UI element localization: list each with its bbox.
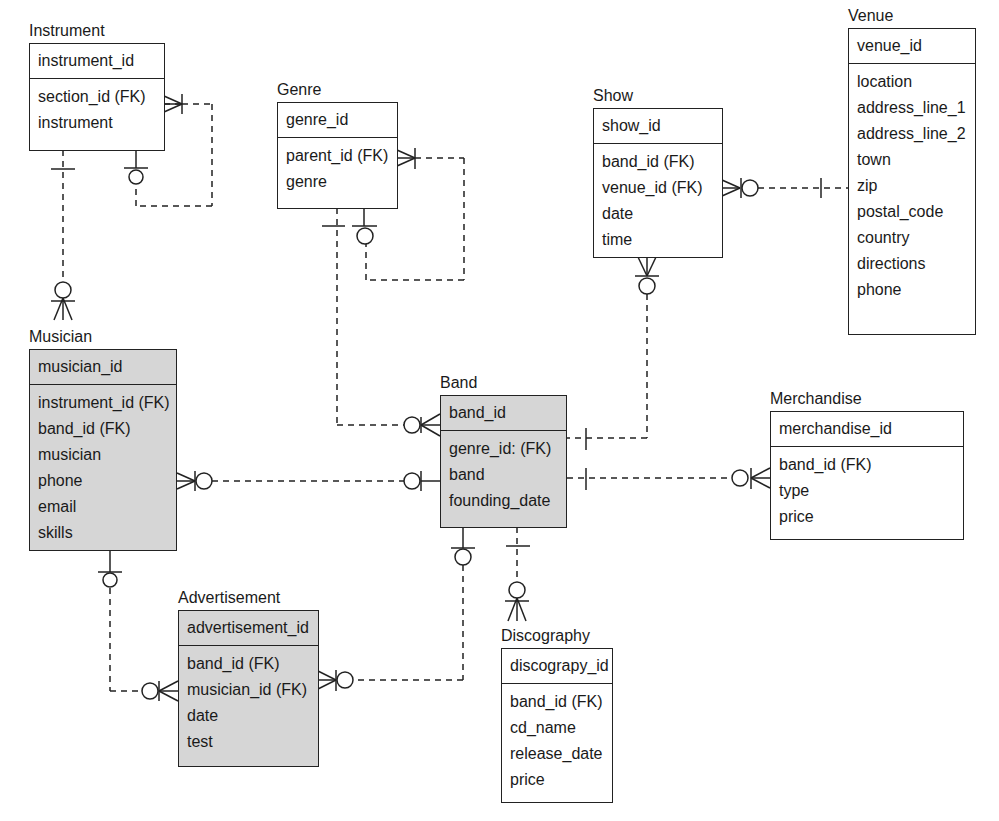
entity-instrument[interactable]: Instrument instrument_id section_id (FK)… (29, 43, 165, 151)
primary-key: band_id (441, 396, 566, 431)
attribute: section_id (FK) (38, 84, 156, 110)
attribute: band_id (FK) (38, 416, 168, 442)
attribute-list: parent_id (FK) genre (278, 138, 397, 203)
entity-box: venue_id location address_line_1 address… (848, 28, 976, 335)
entity-title: Band (440, 374, 477, 392)
attribute: test (187, 729, 310, 755)
entity-box: band_id genre_id: (FK) band founding_dat… (440, 395, 567, 528)
attribute: address_line_2 (857, 121, 967, 147)
attribute-list: location address_line_1 address_line_2 t… (849, 64, 975, 311)
attribute: skills (38, 520, 168, 546)
rel-show-band (567, 257, 659, 450)
rel-musician-advertisement (98, 550, 178, 701)
entity-show[interactable]: Show show_id band_id (FK) venue_id (FK) … (593, 108, 723, 258)
rel-band-discography (505, 527, 530, 621)
rel-musician-band (177, 471, 440, 491)
entity-title: Venue (848, 7, 893, 25)
entity-box: genre_id parent_id (FK) genre (277, 102, 398, 209)
attribute: parent_id (FK) (286, 143, 389, 169)
attribute: directions (857, 251, 967, 277)
entity-discography[interactable]: Discography discograpy_id band_id (FK) c… (501, 648, 613, 803)
entity-title: Show (593, 87, 633, 105)
attribute: type (779, 478, 955, 504)
attribute: band_id (FK) (602, 149, 714, 175)
attribute: zip (857, 173, 967, 199)
attribute: band (449, 462, 558, 488)
attribute: musician (38, 442, 168, 468)
entity-advertisement[interactable]: Advertisement advertisement_id band_id (… (178, 610, 319, 767)
attribute: date (602, 201, 714, 227)
entity-box: show_id band_id (FK) venue_id (FK) date … (593, 108, 723, 258)
attribute: band_id (FK) (779, 452, 955, 478)
attribute-list: band_id (FK) type price (771, 447, 963, 538)
entity-title: Musician (29, 328, 92, 346)
attribute-list: section_id (FK) instrument (30, 79, 164, 144)
attribute: band_id (FK) (510, 689, 604, 715)
attribute: location (857, 69, 967, 95)
attribute: time (602, 227, 714, 253)
entity-box: merchandise_id band_id (FK) type price (770, 411, 964, 540)
entity-box: advertisement_id band_id (FK) musician_i… (178, 610, 319, 767)
attribute: band_id (FK) (187, 651, 310, 677)
attribute: cd_name (510, 715, 604, 741)
primary-key: discograpy_id (502, 649, 612, 684)
primary-key: show_id (594, 109, 722, 144)
rel-genre-band (322, 208, 440, 436)
attribute-list: genre_id: (FK) band founding_date (441, 431, 566, 522)
attribute-list: instrument_id (FK) band_id (FK) musician… (30, 385, 176, 554)
entity-title: Discography (501, 627, 590, 645)
entity-title: Merchandise (770, 390, 862, 408)
entity-box: instrument_id section_id (FK) instrument (29, 43, 165, 151)
attribute: town (857, 147, 967, 173)
attribute: venue_id (FK) (602, 175, 714, 201)
attribute-list: band_id (FK) musician_id (FK) date test (179, 646, 318, 763)
entity-venue[interactable]: Venue venue_id location address_line_1 a… (848, 28, 976, 335)
entity-musician[interactable]: Musician musician_id instrument_id (FK) … (29, 349, 177, 551)
attribute: address_line_1 (857, 95, 967, 121)
attribute: country (857, 225, 967, 251)
attribute: email (38, 494, 168, 520)
attribute: founding_date (449, 488, 558, 514)
entity-merchandise[interactable]: Merchandise merchandise_id band_id (FK) … (770, 411, 964, 540)
attribute: release_date (510, 741, 604, 767)
rel-band-advertisement (318, 527, 475, 691)
attribute: phone (857, 277, 967, 303)
entity-box: musician_id instrument_id (FK) band_id (… (29, 349, 177, 551)
primary-key: genre_id (278, 103, 397, 138)
attribute-list: band_id (FK) cd_name release_date price (502, 684, 612, 801)
rel-show-venue (722, 178, 850, 198)
entity-title: Genre (277, 81, 321, 99)
entity-genre[interactable]: Genre genre_id parent_id (FK) genre (277, 102, 398, 209)
entity-title: Advertisement (178, 589, 280, 607)
rel-instrument-musician (51, 150, 75, 320)
attribute: musician_id (FK) (187, 677, 310, 703)
attribute: phone (38, 468, 168, 494)
entity-title: Instrument (29, 22, 105, 40)
attribute: instrument_id (FK) (38, 390, 168, 416)
rel-band-merchandise (567, 468, 770, 490)
attribute: instrument (38, 110, 156, 136)
attribute: genre_id: (FK) (449, 436, 558, 462)
attribute: genre (286, 169, 389, 195)
primary-key: advertisement_id (179, 611, 318, 646)
attribute: price (510, 767, 604, 793)
primary-key: musician_id (30, 350, 176, 385)
attribute: postal_code (857, 199, 967, 225)
attribute: price (779, 504, 955, 530)
primary-key: instrument_id (30, 44, 164, 79)
primary-key: merchandise_id (771, 412, 963, 447)
primary-key: venue_id (849, 29, 975, 64)
entity-band[interactable]: Band band_id genre_id: (FK) band foundin… (440, 395, 567, 528)
entity-box: discograpy_id band_id (FK) cd_name relea… (501, 648, 613, 803)
attribute-list: band_id (FK) venue_id (FK) date time (594, 144, 722, 261)
attribute: date (187, 703, 310, 729)
